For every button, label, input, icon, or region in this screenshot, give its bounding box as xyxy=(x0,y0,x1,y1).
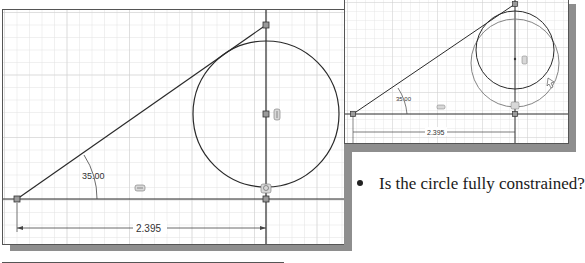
angle-dimension-value[interactable]: 35.00 xyxy=(82,171,105,181)
horizontal-constraint-icon[interactable] xyxy=(437,105,445,109)
right-view-shadow-bottom xyxy=(352,144,576,152)
tangent-constraint-icon[interactable] xyxy=(511,102,519,109)
sketch-point-bottom[interactable] xyxy=(513,112,518,117)
caption-text: Is the circle fully constrained? xyxy=(379,174,585,193)
sketch-point-bottom[interactable] xyxy=(263,196,269,202)
sketch-point-top[interactable] xyxy=(263,22,269,28)
circle-center-point[interactable] xyxy=(263,111,269,117)
bullet-icon xyxy=(357,180,363,186)
sketch-point-top[interactable] xyxy=(513,2,518,7)
sketch-point-left[interactable] xyxy=(351,112,356,117)
vertical-constraint-icon[interactable] xyxy=(274,109,280,120)
right-view-shadow-left xyxy=(344,144,352,251)
sketch-view-right[interactable]: 35.00 2.395 xyxy=(344,0,569,144)
circle-center-point[interactable] xyxy=(514,58,516,60)
sketch-canvas-left[interactable]: 35.00 2.395 xyxy=(3,10,345,244)
horizontal-constraint-icon[interactable] xyxy=(135,185,145,191)
caption-question: Is the circle fully constrained? xyxy=(357,174,585,194)
tangent-constraint-icon[interactable] xyxy=(261,184,271,193)
linear-dimension-value[interactable]: 2.395 xyxy=(427,129,445,136)
sketch-view-left[interactable]: 35.00 2.395 xyxy=(2,9,345,245)
angle-dimension-value[interactable]: 35.00 xyxy=(396,96,412,102)
linear-dimension-value[interactable]: 2.395 xyxy=(136,223,161,234)
sketch-canvas-right[interactable]: 35.00 2.395 xyxy=(345,0,568,143)
vertical-constraint-icon[interactable] xyxy=(522,56,527,64)
sketch-point-left[interactable] xyxy=(14,196,20,202)
right-view-shadow xyxy=(568,4,576,152)
